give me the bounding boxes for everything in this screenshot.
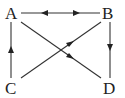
- node-d-label: D: [103, 79, 115, 98]
- node-c-label: C: [5, 79, 16, 98]
- arrow-down-icon: [107, 44, 113, 51]
- edge-b-d: [107, 22, 113, 78]
- edge-c-a: [8, 22, 14, 78]
- arrow-up-icon: [8, 46, 14, 53]
- graph-diagram: A B C D: [0, 0, 125, 98]
- edge-a-b: [21, 10, 100, 16]
- arrow-right-icon: [73, 10, 80, 16]
- node-b-label: B: [102, 4, 113, 23]
- arrow-left-icon: [41, 10, 48, 16]
- node-a-label: A: [5, 4, 18, 23]
